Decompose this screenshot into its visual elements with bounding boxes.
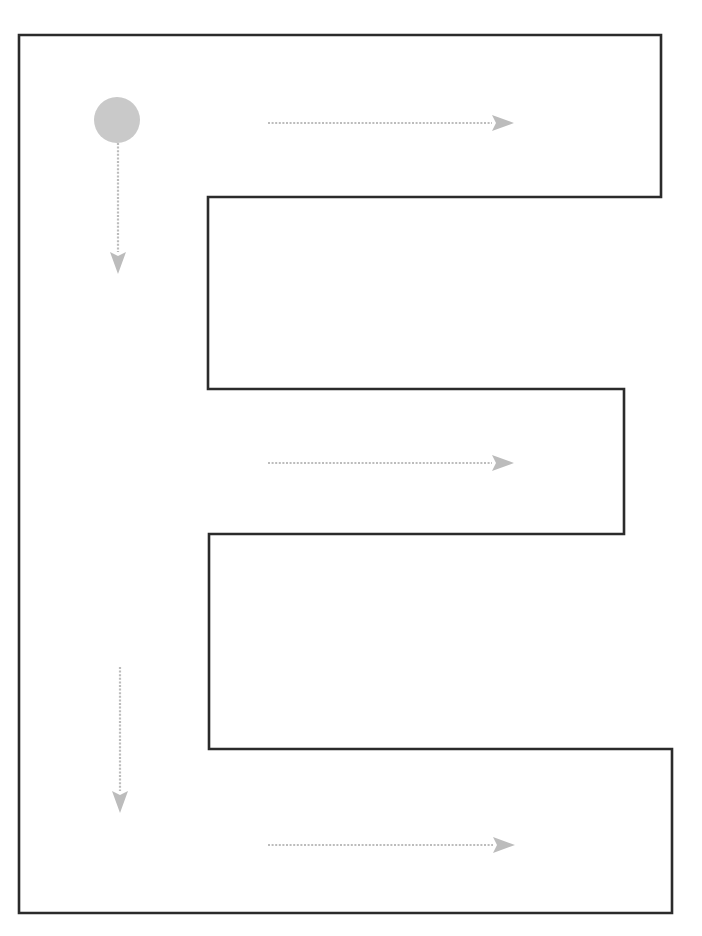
start-point-circle[interactable] [94, 97, 140, 143]
e-shaped-region-outline [19, 35, 672, 913]
diagram-canvas [0, 0, 702, 936]
coverage-path-diagram [0, 0, 702, 936]
